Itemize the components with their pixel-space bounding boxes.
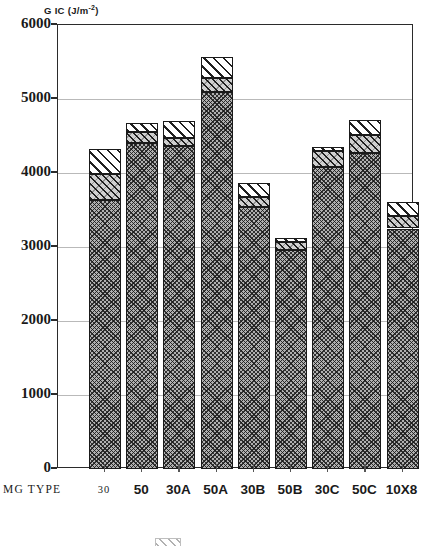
bar-segment-upper [238, 183, 270, 196]
y-axis-title-tail: ) [95, 5, 98, 16]
bar-segment-upper [387, 202, 419, 216]
x-axis-tick [364, 464, 365, 472]
bar [312, 25, 344, 469]
y-axis-tick-label: 3000 [3, 238, 51, 253]
y-axis-tick-label: 4000 [3, 164, 51, 179]
y-axis-title: G IC (J/m-2) [44, 4, 99, 16]
y-axis-tick-label: 2000 [3, 312, 51, 327]
bar-segment-upper [126, 123, 158, 133]
legend-swatch-icon [155, 538, 181, 546]
bar-segment-upper [312, 147, 344, 151]
bar-segment-middle [238, 197, 270, 207]
bar [238, 25, 270, 469]
x-axis-title: MG TYPE [3, 483, 61, 495]
bar-segment-middle [163, 138, 195, 146]
x-axis-tick [141, 464, 142, 472]
bar [201, 25, 233, 469]
bar-segment-upper [163, 121, 195, 138]
y-axis-tick-label: 0 [3, 460, 51, 475]
bar-segment-lower [126, 143, 158, 469]
plot-area [57, 24, 413, 468]
bar-segment-lower [275, 250, 307, 469]
x-axis-tick [290, 464, 291, 472]
bar-segment-lower [238, 207, 270, 469]
bar [126, 25, 158, 469]
y-axis-tick-label: 1000 [3, 386, 51, 401]
bar-segment-upper [349, 120, 381, 136]
bar-segment-middle [89, 174, 121, 201]
bar-segment-middle [312, 151, 344, 167]
x-axis: MG TYPE 305030A50A30B50B30C50C10X8 [0, 482, 426, 502]
bar [349, 25, 381, 469]
y-axis-tick-label: 5000 [3, 90, 51, 105]
bar-segment-lower [387, 229, 419, 470]
bar [275, 25, 307, 469]
x-axis-tick [216, 464, 217, 472]
x-axis-tick [402, 464, 403, 472]
bar-segment-middle [275, 242, 307, 250]
chart-figure: G IC (J/m-2) 0100020003000400050006000 M… [0, 0, 426, 546]
bar-segment-upper [275, 238, 307, 242]
bar-segment-lower [312, 167, 344, 469]
legend-swatch-clipped [155, 538, 181, 546]
y-axis-tick-label: 6000 [3, 16, 51, 31]
bar-segment-upper [201, 57, 233, 78]
x-axis-tick [104, 464, 105, 472]
bar [89, 25, 121, 469]
bar-segment-lower [349, 153, 381, 469]
bar-segment-middle [201, 78, 233, 92]
bar-segment-middle [126, 132, 158, 143]
bar-segment-upper [89, 149, 121, 174]
bar [163, 25, 195, 469]
x-axis-tick [253, 464, 254, 472]
bar-segment-lower [163, 146, 195, 469]
bar [387, 25, 419, 469]
bar-segment-middle [349, 135, 381, 153]
bar-segment-middle [387, 216, 419, 229]
x-axis-tick-label: 10X8 [372, 482, 426, 497]
x-axis-tick [327, 464, 328, 472]
bar-segment-lower [201, 92, 233, 469]
bar-segment-lower [89, 200, 121, 469]
x-axis-tick [178, 464, 179, 472]
